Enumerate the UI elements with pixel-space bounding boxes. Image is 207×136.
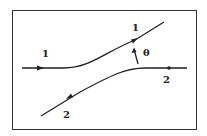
label-2-out: 2 [63, 109, 70, 120]
label-1-in: 1 [42, 48, 49, 59]
angle-label: θ [143, 47, 150, 58]
frame [13, 11, 197, 130]
arrow-2-out-icon [66, 94, 73, 100]
label-1-out: 1 [132, 22, 139, 33]
angle-arrow [135, 51, 139, 64]
arrow-2-in-icon [167, 66, 171, 70]
angle-arrowhead-icon [132, 48, 137, 54]
arrow-1-in-icon [37, 66, 44, 71]
scattering-diagram: 1 1 2 2 θ [0, 0, 207, 136]
trajectory-1 [22, 22, 164, 68]
label-2-in: 2 [163, 74, 170, 85]
arrow-1-out-icon [131, 38, 138, 44]
